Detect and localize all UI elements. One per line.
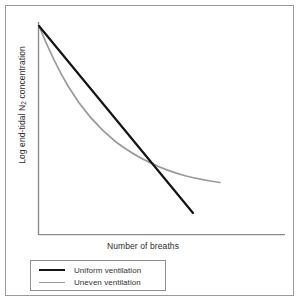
series-line-uniform-ventilation xyxy=(39,26,193,213)
plot-area xyxy=(0,0,299,303)
legend-item-uniform-ventilation: Uniform ventilation xyxy=(31,264,165,276)
chart-legend: Uniform ventilation Uneven ventilation xyxy=(30,260,166,291)
legend-swatch-uniform-ventilation xyxy=(39,269,65,271)
x-axis-label: Number of breaths xyxy=(38,241,248,251)
y-axis-label-before: Log end-tidal N xyxy=(17,105,27,164)
series-line-uneven-ventilation xyxy=(39,26,220,183)
legend-label-uneven-ventilation: Uneven ventilation xyxy=(74,278,141,287)
legend-swatch-uneven-ventilation xyxy=(39,282,65,283)
y-axis-label-subscript: 2 xyxy=(20,101,27,105)
nitrogen-washout-chart: Log end-tidal N2 concentration Number of… xyxy=(0,0,299,303)
legend-item-uneven-ventilation: Uneven ventilation xyxy=(31,276,165,288)
y-axis-label: Log end-tidal N2 concentration xyxy=(17,20,27,190)
y-axis-label-after: concentration xyxy=(17,46,27,101)
legend-label-uniform-ventilation: Uniform ventilation xyxy=(74,266,141,275)
